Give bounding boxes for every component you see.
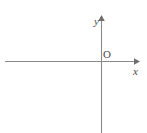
x-axis-label: x bbox=[133, 66, 138, 77]
origin-label: O bbox=[103, 49, 111, 60]
y-axis-arrowhead bbox=[98, 15, 105, 21]
axes-drawing bbox=[0, 0, 147, 133]
coordinate-axes-figure: y x O bbox=[0, 0, 147, 133]
y-axis-label: y bbox=[94, 16, 99, 27]
x-axis-arrowhead bbox=[134, 58, 140, 65]
